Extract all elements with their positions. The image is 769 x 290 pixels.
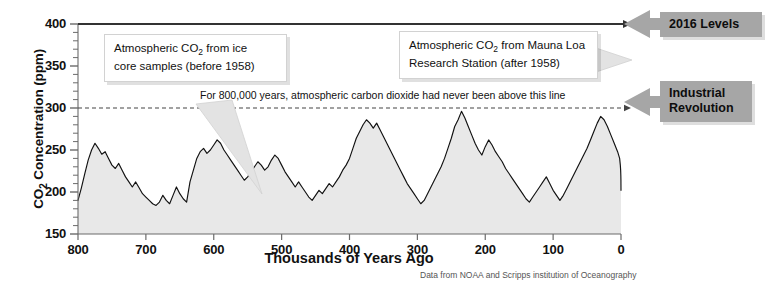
mauna-loa-callout-text-b: from Mauna Loa	[498, 39, 585, 51]
ice-core-callout-line2: core samples (before 1958)	[114, 60, 255, 72]
source-note: Data from NOAA and Scripps institution o…	[420, 270, 760, 280]
mauna-loa-callout-text-a: Atmospheric CO	[409, 39, 493, 51]
y-tick-label: 400	[26, 16, 66, 31]
ice-core-callout-text-a: Atmospheric CO	[114, 42, 198, 54]
co2-chart: CO2 Concentration (ppm) Thousands of Yea…	[0, 0, 769, 290]
y-tick-label: 350	[26, 58, 66, 73]
x-tick-label: 300	[397, 242, 437, 257]
co2-area-fill	[78, 111, 621, 234]
industrial-revolution-line2: Revolution	[669, 101, 734, 115]
x-axis-ticks	[78, 234, 621, 240]
y-tick-label: 300	[26, 100, 66, 115]
x-tick-label: 600	[194, 242, 234, 257]
x-tick-label: 200	[465, 242, 505, 257]
mauna-loa-callout-line2: Research Station (after 1958)	[409, 57, 560, 69]
threshold-note: For 800,000 years, atmospheric carbon di…	[200, 89, 600, 101]
ice-core-callout-text-b: from ice	[203, 42, 247, 54]
x-tick-label: 0	[601, 242, 641, 257]
y-tick-label: 250	[26, 142, 66, 157]
industrial-revolution-line1: Industrial	[669, 86, 725, 100]
x-tick-label: 400	[330, 242, 370, 257]
x-tick-label: 500	[262, 242, 302, 257]
y-axis-ticks	[70, 24, 78, 234]
mauna-loa-callout-pointer	[596, 48, 632, 72]
x-tick-label: 800	[58, 242, 98, 257]
x-tick-label: 700	[126, 242, 166, 257]
mauna-loa-callout: Atmospheric CO2 from Mauna Loa Research …	[399, 31, 598, 79]
ice-core-callout: Atmospheric CO2 from ice core samples (b…	[104, 34, 287, 82]
label-2016-levels: 2016 Levels	[660, 12, 762, 37]
y-tick-label: 150	[26, 226, 66, 241]
y-tick-label: 200	[26, 184, 66, 199]
label-industrial-revolution: Industrial Revolution	[660, 81, 752, 122]
x-tick-label: 100	[533, 242, 573, 257]
